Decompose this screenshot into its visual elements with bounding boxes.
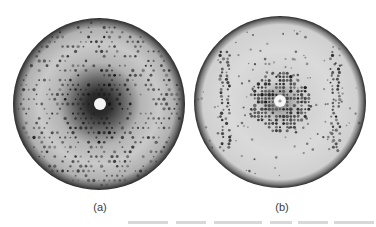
panel-b-label: (b) xyxy=(267,201,297,213)
cutoff-caption-line xyxy=(0,221,376,227)
diffraction-figure: (a) (b) xyxy=(0,0,376,227)
panel-a-beam-center xyxy=(94,98,106,110)
panel-a-pattern xyxy=(13,18,185,190)
panel-a-label: (a) xyxy=(85,201,115,213)
diffraction-patterns xyxy=(0,0,376,227)
panel-b-beam-dot xyxy=(278,99,281,102)
panel-b-pattern xyxy=(194,16,366,188)
